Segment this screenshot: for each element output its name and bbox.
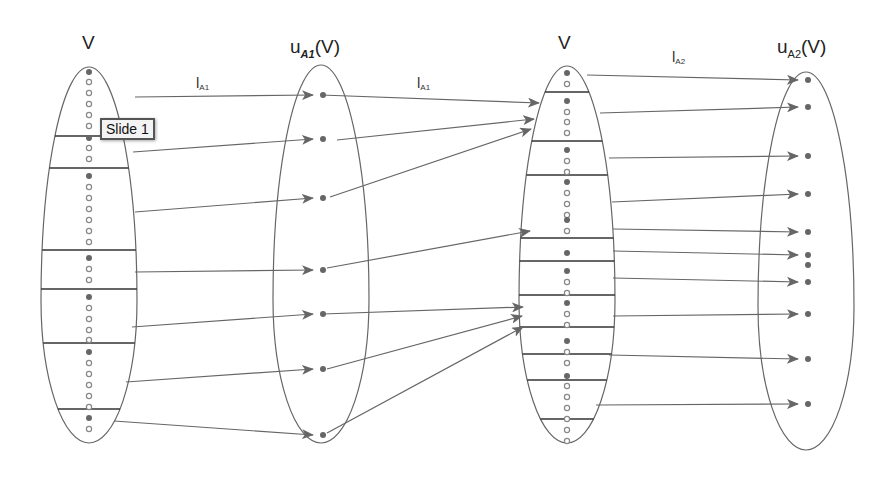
element-dot-hollow xyxy=(86,305,91,310)
element-dot-filled xyxy=(564,98,570,104)
set-label-v-left: V xyxy=(82,32,95,54)
map-label-1: lA1 xyxy=(196,74,209,92)
mapping-arrow xyxy=(114,421,313,435)
element-dot-hollow xyxy=(564,416,569,421)
slide-tooltip: Slide 1 xyxy=(100,118,155,140)
element-dot-hollow xyxy=(86,426,91,431)
set-label-text: V xyxy=(82,32,95,53)
element-dot-filled xyxy=(564,179,570,185)
element-dot-hollow xyxy=(564,201,569,206)
map-label-subscript: A2 xyxy=(675,57,685,66)
set-label-subscript: A2 xyxy=(788,48,801,60)
element-dot-hollow xyxy=(86,266,91,271)
image-element-dot xyxy=(805,77,811,83)
set-label-base: u xyxy=(290,36,301,57)
mapping-arrow xyxy=(337,119,534,140)
element-dot-hollow xyxy=(86,184,91,189)
element-dot-hollow xyxy=(564,279,569,284)
image-element-dot xyxy=(805,356,811,362)
element-dot-hollow xyxy=(564,190,569,195)
element-dot-hollow xyxy=(564,130,569,135)
mapping-arrow xyxy=(613,251,798,255)
element-dot-hollow xyxy=(564,290,569,295)
element-dot-hollow xyxy=(86,228,91,233)
image-element-dot xyxy=(805,191,811,197)
element-dot-filled xyxy=(86,135,92,141)
set-label-ua2: uA2(V) xyxy=(777,36,826,60)
mapping-arrow xyxy=(327,316,522,369)
element-dot-hollow xyxy=(86,277,91,282)
image-element-dot xyxy=(320,195,326,201)
element-dot-hollow xyxy=(564,228,569,233)
mapping-arrow xyxy=(126,369,313,382)
element-dot-hollow xyxy=(86,206,91,211)
map-label-3: lA2 xyxy=(672,48,685,66)
image-element-dot xyxy=(320,432,326,438)
element-dot-hollow xyxy=(86,145,91,150)
mapping-arrow xyxy=(613,314,798,316)
element-dot-filled xyxy=(86,69,92,75)
mapping-arrow xyxy=(327,231,530,268)
mapping-arrow xyxy=(133,139,313,152)
set-label-base: u xyxy=(777,36,788,57)
map-label-subscript: A1 xyxy=(420,83,430,92)
element-dots xyxy=(86,69,811,444)
element-dot-hollow xyxy=(564,360,569,365)
set-label-subscript: A1 xyxy=(301,48,315,60)
element-dot-filled xyxy=(86,294,92,300)
element-dot-hollow xyxy=(86,79,91,84)
mapping-arrow xyxy=(596,404,798,405)
element-dot-hollow xyxy=(564,158,569,163)
element-dot-hollow xyxy=(86,327,91,332)
element-dot-hollow xyxy=(86,393,91,398)
element-dot-filled xyxy=(564,250,570,256)
mapping-arrow xyxy=(612,194,798,202)
element-dot-filled xyxy=(564,268,570,274)
mapping-arrow xyxy=(600,107,798,113)
image-element-dot xyxy=(805,104,811,110)
element-dot-hollow xyxy=(564,212,569,217)
element-dot-filled xyxy=(564,147,570,153)
element-dot-filled xyxy=(564,373,570,379)
element-dot-hollow xyxy=(564,394,569,399)
element-dot-filled xyxy=(564,300,570,306)
element-dot-hollow xyxy=(564,81,569,86)
image-element-dot xyxy=(805,311,811,317)
element-dot-hollow xyxy=(86,90,91,95)
mapping-arrow xyxy=(135,270,313,272)
element-dot-hollow xyxy=(86,371,91,376)
element-dot-hollow xyxy=(564,383,569,388)
element-dot-filled xyxy=(86,415,92,421)
element-dot-hollow xyxy=(86,101,91,106)
image-element-dot xyxy=(320,136,326,142)
element-dot-filled xyxy=(86,349,92,355)
mapping-arrow xyxy=(135,95,313,97)
element-dot-hollow xyxy=(564,405,569,410)
mapping-arrow xyxy=(613,278,798,282)
set-label-ua1: uA1(V) xyxy=(290,36,340,60)
element-dot-hollow xyxy=(564,109,569,114)
element-dot-hollow xyxy=(564,349,569,354)
mapping-diagram xyxy=(0,0,891,479)
element-dot-filled xyxy=(86,173,92,179)
set-label-text: V xyxy=(558,32,571,53)
set-label-v-right: V xyxy=(558,32,571,54)
element-dot-hollow xyxy=(86,195,91,200)
element-dot-hollow xyxy=(86,112,91,117)
set-label-tail: (V) xyxy=(801,36,826,57)
image-element-dot xyxy=(805,252,811,258)
mapping-arrow xyxy=(323,307,523,314)
image-element-dot xyxy=(805,401,811,407)
element-dot-filled xyxy=(564,70,570,76)
element-dot-filled xyxy=(564,217,570,223)
mapping-arrows xyxy=(114,75,798,435)
set-ellipse-uA1 xyxy=(273,65,369,443)
mapping-arrow xyxy=(587,75,798,80)
element-dot-filled xyxy=(86,255,92,261)
element-dot-hollow xyxy=(564,119,569,124)
mapping-arrow xyxy=(321,95,539,103)
mapping-arrow xyxy=(132,314,313,327)
image-element-dot xyxy=(805,279,811,285)
element-dot-hollow xyxy=(86,123,91,128)
element-dot-filled xyxy=(564,338,570,344)
